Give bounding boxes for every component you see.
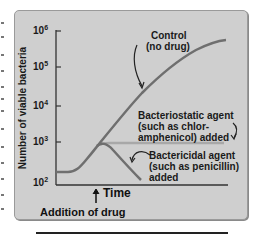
control-annotation: Control (no drug) [146,30,190,52]
drug-addition-label: Addition of drug [40,206,126,218]
control-pointer-icon [134,45,142,86]
bacteriostatic-curve [97,143,224,146]
y-tick-1e3: 103 [33,135,48,147]
bactericidal-annotation: Bactericidal agent (such as penicillin) … [149,150,239,183]
y-tick-1e6: 106 [33,24,48,36]
y-tick-1e2: 102 [33,176,48,188]
y-tick-1e4: 104 [33,99,48,111]
bacteriostatic-annotation: Bacteriostatic agent (such as chlor- amp… [138,110,234,143]
x-axis-label: Time [103,186,131,200]
y-axis-label: Number of viable bacteria [17,28,28,188]
bactericidal-curve [97,144,141,180]
y-tick-1e5: 105 [33,60,48,72]
bottom-divider [36,232,228,234]
